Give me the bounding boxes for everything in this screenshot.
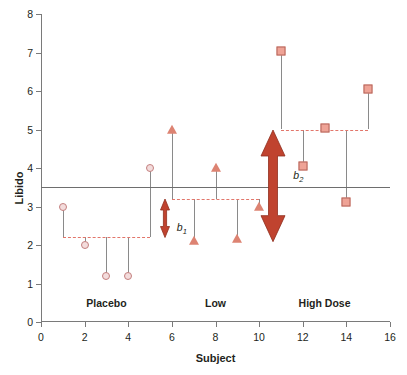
data-point-circle	[124, 272, 132, 280]
data-point-stem	[281, 51, 282, 130]
x-axis-tick	[85, 322, 86, 327]
data-point-stem	[150, 168, 151, 237]
group-label-low: Low	[205, 297, 226, 309]
group-mean-line	[63, 237, 150, 238]
x-axis-tick-label: 14	[341, 331, 353, 343]
data-point-circle	[59, 203, 67, 211]
annotation-arrow-glyph	[159, 199, 172, 238]
data-point-circle	[146, 164, 154, 172]
y-axis-tick-label: 7	[27, 47, 33, 59]
data-point-stem	[216, 168, 217, 199]
annotation-label-subscript: 1	[183, 227, 187, 236]
x-axis-title: Subject	[41, 352, 390, 364]
data-point-square	[364, 85, 373, 94]
data-point-triangle	[189, 236, 199, 245]
data-point-stem	[172, 130, 173, 199]
x-axis-tick	[303, 322, 304, 327]
y-axis-tick-label: 0	[27, 316, 33, 328]
data-point-stem	[63, 207, 64, 238]
group-label-high-dose: High Dose	[299, 297, 351, 309]
y-axis-tick	[36, 207, 41, 208]
y-axis-tick	[36, 53, 41, 54]
data-point-square	[320, 123, 329, 132]
y-axis-tick	[36, 284, 41, 285]
y-axis-tick	[36, 130, 41, 131]
y-axis-tick	[36, 91, 41, 92]
x-axis-tick	[259, 322, 260, 327]
x-axis-tick	[41, 322, 42, 327]
x-axis-tick	[172, 322, 173, 327]
data-point-triangle	[167, 124, 177, 133]
annotation-label-b1: b1	[177, 221, 187, 236]
chart-root: Libido 0123456780246810121416b1b2Placebo…	[0, 0, 407, 375]
x-axis-tick	[216, 322, 217, 327]
data-point-circle	[81, 241, 89, 249]
data-point-stem	[346, 130, 347, 202]
x-axis-tick-label: 4	[125, 331, 131, 343]
y-axis-tick	[36, 14, 41, 15]
y-axis-tick-label: 1	[27, 278, 33, 290]
x-axis-tick-label: 2	[82, 331, 88, 343]
annotation-label-subscript: 2	[299, 175, 303, 184]
x-axis-tick-label: 16	[384, 331, 396, 343]
data-point-square	[276, 46, 285, 55]
y-axis-tick-label: 3	[27, 201, 33, 213]
data-point-circle	[102, 272, 110, 280]
y-axis-title: Libido	[13, 171, 25, 204]
y-axis-tick	[36, 168, 41, 169]
x-axis-tick-label: 12	[297, 331, 309, 343]
data-point-stem	[106, 237, 107, 276]
y-axis-tick-label: 2	[27, 239, 33, 251]
y-axis-tick	[36, 245, 41, 246]
annotation-label-b2: b2	[293, 169, 303, 184]
annotation-arrow-glyph	[259, 130, 287, 242]
x-axis-tick	[390, 322, 391, 327]
x-axis-tick-label: 8	[213, 331, 219, 343]
y-axis-tick-label: 8	[27, 8, 33, 20]
y-axis-tick-label: 6	[27, 85, 33, 97]
grand-mean-line	[41, 187, 390, 188]
group-mean-line	[172, 199, 259, 200]
x-axis-tick	[346, 322, 347, 327]
data-point-triangle	[232, 234, 242, 243]
data-point-stem	[368, 89, 369, 129]
plot-area: 0123456780246810121416b1b2PlaceboLowHigh…	[41, 14, 390, 322]
x-axis-tick-label: 10	[253, 331, 265, 343]
data-point-triangle	[211, 163, 221, 172]
annotation-arrow-b2	[259, 130, 287, 242]
x-axis-tick-label: 6	[169, 331, 175, 343]
x-axis-tick	[128, 322, 129, 327]
x-axis-tick-label: 0	[38, 331, 44, 343]
y-axis-tick-label: 4	[27, 162, 33, 174]
group-label-placebo: Placebo	[86, 297, 126, 309]
data-point-stem	[128, 237, 129, 276]
data-point-stem	[194, 199, 195, 241]
y-axis-tick-label: 5	[27, 124, 33, 136]
data-point-square	[342, 197, 351, 206]
annotation-arrow-b1	[159, 199, 172, 238]
